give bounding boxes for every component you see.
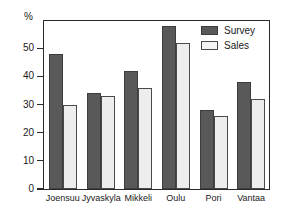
y-axis-tick: [37, 76, 43, 77]
bar-survey-oulu: [162, 26, 176, 189]
bar-sales-pori: [214, 116, 228, 189]
legend-swatch-sales: [201, 41, 218, 50]
legend-swatch-survey: [201, 26, 218, 35]
bar-group: [162, 20, 190, 189]
y-axis-tick: [37, 132, 43, 133]
x-axis-label-vantaa: Vantaa: [232, 193, 270, 204]
y-axis-tick-label: 10: [8, 156, 34, 166]
y-axis-tick: [37, 48, 43, 49]
x-axis-line: [43, 189, 270, 190]
bar-chart: % 01020304050 JoensuuJyvaskylaMikkeliOul…: [0, 0, 283, 217]
x-axis-label-jyvaskyla: Jyvaskyla: [82, 193, 120, 204]
y-axis-tick-label: 40: [8, 71, 34, 81]
y-axis-tick: [37, 188, 43, 189]
x-axis-label-pori: Pori: [195, 193, 233, 204]
legend-label-survey: Survey: [224, 25, 255, 36]
bar-group: [124, 20, 152, 189]
bar-sales-jyvaskyla: [101, 96, 115, 189]
chart-legend: SurveySales: [201, 24, 255, 54]
bar-survey-jyvaskyla: [87, 93, 101, 189]
y-axis-tick: [37, 160, 43, 161]
x-axis-label-oulu: Oulu: [157, 193, 195, 204]
y-axis-unit-label: %: [24, 11, 33, 22]
y-axis-tick: [37, 104, 43, 105]
bar-sales-mikkeli: [138, 88, 152, 189]
y-axis-tick-label: 30: [8, 100, 34, 110]
x-axis-label-joensuu: Joensuu: [44, 193, 82, 204]
legend-item-survey: Survey: [201, 24, 255, 37]
y-axis-tick-label: 20: [8, 128, 34, 138]
legend-label-sales: Sales: [224, 40, 249, 51]
bar-sales-vantaa: [251, 99, 265, 189]
bar-survey-joensuu: [49, 54, 63, 189]
x-axis-label-mikkeli: Mikkeli: [119, 193, 157, 204]
y-axis-tick-label: 50: [8, 43, 34, 53]
legend-item-sales: Sales: [201, 39, 255, 52]
bar-survey-vantaa: [237, 82, 251, 189]
bar-survey-mikkeli: [124, 71, 138, 189]
bar-group: [87, 20, 115, 189]
y-axis-tick-label: 0: [8, 184, 34, 194]
bar-sales-joensuu: [63, 105, 77, 190]
bar-group: [49, 20, 77, 189]
bar-survey-pori: [200, 110, 214, 189]
bar-sales-oulu: [176, 43, 190, 189]
